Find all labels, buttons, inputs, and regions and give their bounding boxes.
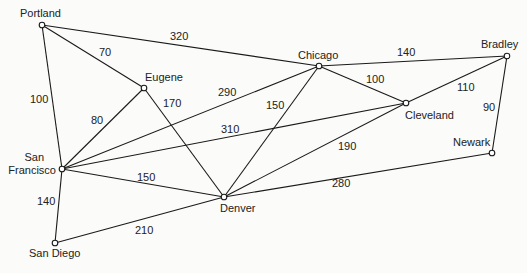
node-label-sanfrancisco: SanFrancisco <box>8 151 56 176</box>
edge-weight-label: 150 <box>266 99 284 111</box>
edge-denver-newark <box>224 153 492 197</box>
node-label-cleveland: Cleveland <box>405 109 454 121</box>
edge-sanfrancisco-sandiego <box>55 169 62 243</box>
edge-weight-label: 310 <box>221 123 239 135</box>
node-label-denver: Denver <box>220 202 256 214</box>
edge-weight-label: 170 <box>163 97 181 109</box>
labels-layer: PortlandEugeneChicagoBradleyClevelandNew… <box>8 7 518 259</box>
edge-cleveland-denver <box>224 103 406 197</box>
edge-cleveland-sanfrancisco <box>62 103 406 169</box>
edge-weight-label: 280 <box>332 177 350 189</box>
edge-portland-eugene <box>42 25 144 88</box>
edges-layer <box>42 25 507 243</box>
edge-weight-label: 320 <box>170 30 188 42</box>
node-label-sandiego: San Diego <box>29 247 80 259</box>
edge-chicago-cleveland <box>319 66 406 103</box>
node-sandiego <box>52 240 58 246</box>
edge-weight-label: 70 <box>99 46 111 58</box>
node-label-bradley: Bradley <box>481 38 519 50</box>
node-sanfrancisco <box>59 166 65 172</box>
node-chicago <box>316 63 322 69</box>
node-bradley <box>504 53 510 59</box>
edge-weight-label: 150 <box>137 171 155 183</box>
node-denver <box>221 194 227 200</box>
edge-weight-label: 80 <box>91 114 103 126</box>
edge-weight-label: 90 <box>483 101 495 113</box>
edge-weight-label: 110 <box>457 81 475 93</box>
edge-weight-label: 100 <box>30 93 48 105</box>
node-newark <box>489 150 495 156</box>
edge-weight-label: 210 <box>135 224 153 236</box>
node-eugene <box>141 85 147 91</box>
node-portland <box>39 22 45 28</box>
edge-weight-label: 140 <box>397 46 415 58</box>
node-label-portland: Portland <box>20 7 61 19</box>
edge-weight-label: 290 <box>218 86 236 98</box>
edge-weight-label: 190 <box>338 140 356 152</box>
edge-weight-label: 100 <box>366 73 384 85</box>
node-cleveland <box>403 100 409 106</box>
node-label-eugene: Eugene <box>145 71 183 83</box>
edge-bradley-cleveland <box>406 56 507 103</box>
node-label-chicago: Chicago <box>298 49 338 61</box>
edge-weight-label: 140 <box>37 195 55 207</box>
graph-diagram: 3207010080170290150140100110903101901501… <box>0 0 527 273</box>
graph-svg: 3207010080170290150140100110903101901501… <box>0 0 527 273</box>
edge-eugene-sanfrancisco <box>62 88 144 169</box>
node-label-newark: Newark <box>453 136 491 148</box>
edge-eugene-denver <box>144 88 224 197</box>
edge-sandiego-denver <box>55 197 224 243</box>
